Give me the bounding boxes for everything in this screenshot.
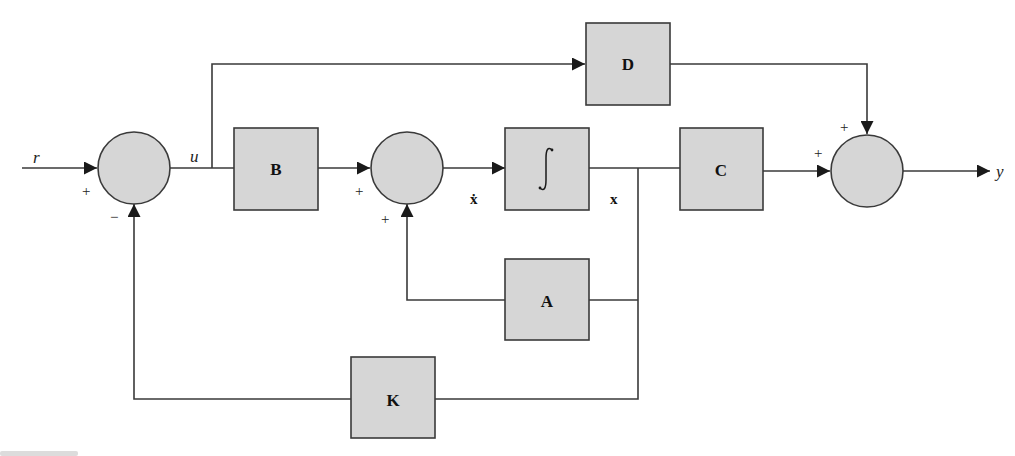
sum2-plus-bottom-sign: +: [381, 211, 389, 227]
wire-A-to-sum2: [407, 204, 505, 300]
sum2-plus-left-sign: +: [355, 183, 363, 199]
wire-D-to-sum3: [670, 64, 867, 134]
block-A-label: A: [541, 292, 554, 311]
state-feedback-block-diagram: B D C A K r u ẋ x y + − + + + +: [0, 0, 1015, 456]
block-C: C: [680, 128, 763, 210]
block-K: K: [351, 357, 435, 438]
block-K-label: K: [386, 391, 400, 410]
sum1-plus-sign: +: [82, 183, 90, 199]
sum1-minus-sign: −: [110, 209, 118, 225]
summing-junction-3: [831, 135, 903, 207]
block-integrator: [505, 128, 589, 210]
wires: [22, 64, 990, 399]
signal-r-label: r: [33, 148, 40, 167]
block-D-label: D: [622, 55, 634, 74]
summing-junction-2: [371, 132, 443, 204]
summing-junction-1: [98, 132, 170, 204]
signal-u-label: u: [190, 147, 199, 166]
signal-y-label: y: [994, 162, 1004, 181]
signal-x-label: x: [610, 191, 618, 207]
sum3-plus-top-sign: +: [840, 119, 848, 135]
block-B-label: B: [270, 160, 281, 179]
block-C-label: C: [715, 161, 727, 180]
block-B: B: [234, 128, 318, 210]
block-A: A: [505, 259, 589, 340]
block-D: D: [586, 23, 670, 105]
wire-K-to-sum1: [134, 204, 351, 399]
signal-xdot-label: ẋ: [470, 191, 478, 207]
page-edge-tab: [0, 451, 78, 456]
sum3-plus-left-sign: +: [814, 145, 822, 161]
